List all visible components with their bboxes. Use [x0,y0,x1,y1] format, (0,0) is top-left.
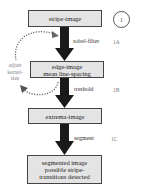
stage-marker-circle: I [113,11,130,28]
step-1a: 1A [113,39,120,45]
feedback-label-line: size [3,75,27,82]
node-label: segmented image [42,159,87,166]
feedback-arrow-bottom [24,82,58,95]
node-edge-image: edge-image mean line-spacing [30,61,104,78]
node-stripe-image: stripe-image [28,10,102,27]
flow-arrows [55,27,74,155]
feedback-arrowhead-top-icon [52,31,59,38]
step-1c: 1C [111,136,117,142]
node-extrema-image: extrema-image [28,108,102,124]
node-label: transitions detected [39,173,89,180]
feedback-label: adjust kernel- size [3,62,27,82]
node-label: stripe-image [49,15,82,22]
feedback-arrow-top [15,32,55,60]
stage-marker-label: I [121,17,123,23]
node-label: extrema-image [46,113,85,120]
node-segmented-image: segmented image possible stripe- transit… [27,155,102,184]
node-label: mean line-spacing [43,70,90,77]
edge-label-segment: segment [74,135,94,142]
node-label: possible stripe- [45,166,85,173]
edge-label-sobel-filter: sobel-filter [73,38,99,45]
edge-label-treshold: treshold [74,86,93,93]
node-label: edge-image [52,63,82,70]
step-1b: 1B [113,87,119,93]
